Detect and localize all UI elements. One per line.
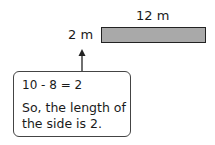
explanation-callout: 10 - 8 = 2 So, the length of the side is…	[13, 71, 131, 137]
callout-conclusion: So, the length of the side is 2.	[22, 100, 130, 132]
rectangle-length-label: 12 m	[136, 9, 169, 23]
rectangle-shape	[101, 27, 206, 43]
callout-equation: 10 - 8 = 2	[22, 78, 82, 92]
rectangle-width-label: 2 m	[68, 28, 93, 42]
arrow-up-icon	[76, 49, 88, 73]
